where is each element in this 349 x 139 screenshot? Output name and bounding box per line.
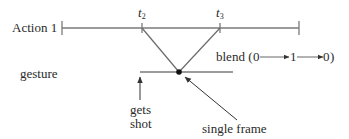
blend-value-0: 0 bbox=[253, 50, 260, 64]
gesture-label: gesture bbox=[20, 67, 58, 81]
blend-suffix: ) bbox=[330, 50, 334, 64]
blend-v-lines bbox=[142, 28, 220, 72]
t3-sub: 3 bbox=[220, 12, 224, 21]
t2-sub: 2 bbox=[142, 12, 146, 21]
gets-shot-line2: shot bbox=[130, 117, 152, 131]
blend-value-2: 0 bbox=[323, 50, 330, 64]
action-timeline bbox=[62, 21, 299, 35]
gets-shot-line1: gets bbox=[130, 103, 151, 117]
single-frame-arrow bbox=[185, 77, 237, 120]
t2-label: t2 bbox=[138, 6, 146, 24]
t3-label: t3 bbox=[216, 6, 224, 24]
blend-prefix: blend ( bbox=[216, 50, 252, 64]
single-frame-dot bbox=[176, 69, 182, 75]
blend-value-1: 1 bbox=[290, 50, 297, 64]
action-1-label: Action 1 bbox=[12, 21, 57, 35]
single-frame-label: single frame bbox=[202, 122, 267, 136]
